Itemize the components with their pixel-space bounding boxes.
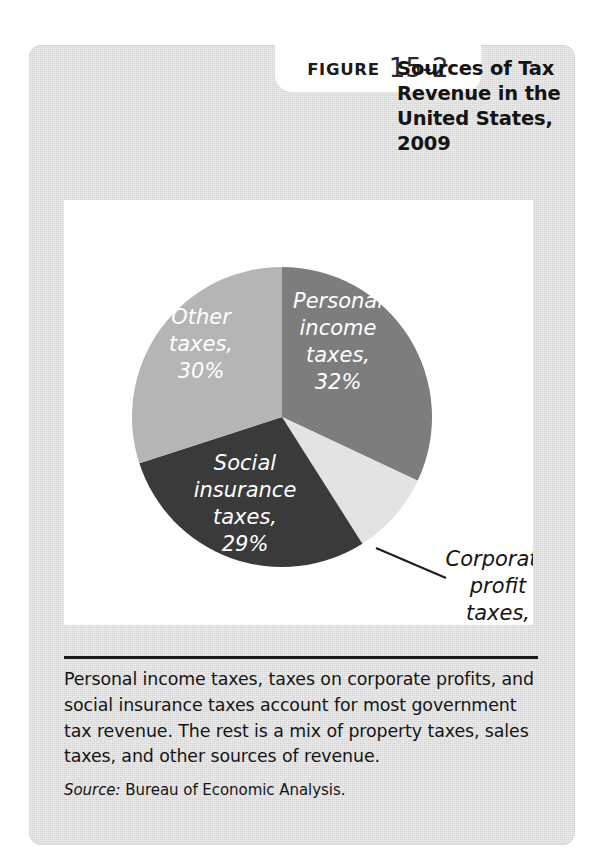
pie-chart-plate: Personal income taxes, 32% Social insura… — [64, 200, 533, 625]
svg-text:Corporate: Corporate — [446, 547, 533, 571]
svg-text:Other: Other — [171, 305, 232, 329]
figure-word-label: FIGURE — [307, 60, 380, 79]
source-label: Source: — [64, 781, 121, 799]
svg-text:income: income — [300, 316, 377, 340]
svg-text:taxes,: taxes, — [466, 601, 530, 625]
pie-label-corporate-profit: Corporate profit taxes, 9% — [446, 547, 533, 625]
svg-text:profit: profit — [469, 574, 527, 598]
svg-text:Personal: Personal — [293, 289, 383, 313]
figure-source: Source: Bureau of Economic Analysis. — [64, 781, 546, 799]
source-text: Bureau of Economic Analysis. — [125, 781, 345, 799]
svg-text:taxes,: taxes, — [213, 505, 277, 529]
svg-text:insurance: insurance — [194, 478, 297, 502]
caption-divider — [64, 656, 538, 659]
svg-text:Social: Social — [214, 451, 276, 475]
svg-text:29%: 29% — [222, 532, 269, 556]
pie-chart: Personal income taxes, 32% Social insura… — [64, 200, 533, 625]
svg-text:taxes,: taxes, — [169, 332, 233, 356]
figure-caption: Personal income taxes, taxes on corporat… — [64, 667, 546, 770]
svg-text:30%: 30% — [178, 359, 225, 383]
figure-card: FIGURE 15-2 Sources of Tax Revenue in th… — [29, 45, 575, 845]
pie-label-other-taxes: Other taxes, 30% — [169, 305, 233, 383]
figure-title: Sources of Tax Revenue in the United Sta… — [397, 57, 572, 157]
svg-text:taxes,: taxes, — [306, 343, 370, 367]
svg-text:32%: 32% — [315, 370, 362, 394]
corporate-profit-leader-line — [376, 548, 446, 578]
